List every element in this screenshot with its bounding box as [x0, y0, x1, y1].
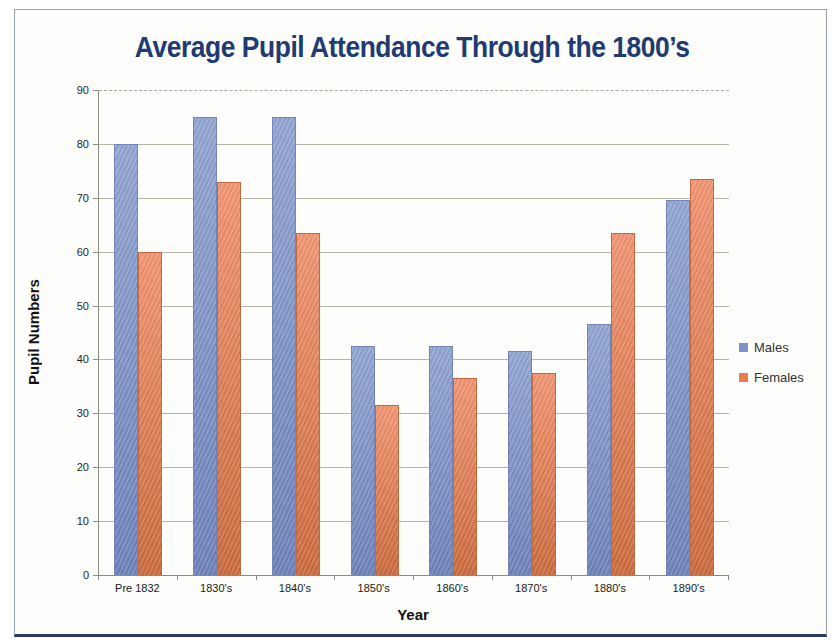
plot-area [98, 90, 729, 576]
y-tick-mark [93, 90, 98, 91]
bar-group-1850's [335, 90, 414, 575]
x-tick-mark [649, 576, 650, 580]
legend-item-females: Females [739, 370, 804, 385]
x-tick-mark [571, 576, 572, 580]
x-tick-label-1890's: 1890's [649, 582, 729, 594]
y-tick-label-90: 90 [55, 83, 89, 97]
bar-group-1870's [493, 90, 572, 575]
y-tick-label-30: 30 [55, 406, 89, 420]
x-tick-mark [492, 576, 493, 580]
bar-females-1870's [532, 373, 556, 575]
y-tick-label-80: 80 [55, 137, 89, 151]
bar-males-1850's [351, 346, 375, 575]
bar-females-1890's [690, 179, 714, 575]
y-tick-label-60: 60 [55, 245, 89, 259]
y-tick-mark [93, 306, 98, 307]
bar-group-1890's [650, 90, 729, 575]
bar-group-1860's [414, 90, 493, 575]
bar-males-1830's [193, 117, 217, 575]
y-tick-label-0: 0 [55, 568, 89, 582]
x-tick-label-1860's: 1860's [412, 582, 492, 594]
x-tick-mark [334, 576, 335, 580]
legend: Males Females [739, 340, 804, 400]
chart-title: Average Pupil Attendance Through the 180… [15, 30, 810, 64]
x-tick-label-1850's: 1850's [334, 582, 414, 594]
bar-females-1850's [375, 405, 399, 575]
y-tick-label-10: 10 [55, 514, 89, 528]
y-axis-title: Pupil Numbers [25, 222, 42, 442]
y-tick-mark [93, 521, 98, 522]
legend-item-males: Males [739, 340, 804, 355]
x-tick-label-1830's: 1830's [176, 582, 256, 594]
legend-label-males: Males [754, 340, 789, 355]
bar-group-1880's [572, 90, 651, 575]
bar-females-1860's [453, 378, 477, 575]
males-swatch-icon [739, 343, 748, 352]
y-tick-mark [93, 467, 98, 468]
bar-males-1880's [587, 324, 611, 575]
x-tick-label-1870's: 1870's [491, 582, 571, 594]
bar-group-Pre 1832 [99, 90, 178, 575]
x-tick-label-Pre 1832: Pre 1832 [97, 582, 177, 594]
y-tick-label-70: 70 [55, 191, 89, 205]
scanned-chart-page: Average Pupil Attendance Through the 180… [0, 0, 834, 643]
chart-title-text: Average Pupil Attendance Through the 180… [135, 30, 690, 64]
bar-females-1840's [296, 233, 320, 575]
bar-males-1890's [666, 200, 690, 575]
females-swatch-icon [739, 373, 748, 382]
y-tick-label-50: 50 [55, 299, 89, 313]
y-tick-mark [93, 198, 98, 199]
bar-group-1830's [178, 90, 257, 575]
legend-label-females: Females [754, 370, 804, 385]
bar-males-Pre 1832 [114, 144, 138, 575]
y-tick-mark [93, 144, 98, 145]
x-tick-mark [177, 576, 178, 580]
y-tick-mark [93, 359, 98, 360]
bar-females-Pre 1832 [138, 252, 162, 575]
x-tick-mark [256, 576, 257, 580]
x-tick-mark [98, 576, 99, 580]
x-tick-label-1880's: 1880's [570, 582, 650, 594]
x-axis-title: Year [98, 606, 728, 623]
y-tick-label-40: 40 [55, 352, 89, 366]
bar-males-1860's [429, 346, 453, 575]
bar-males-1870's [508, 351, 532, 575]
y-tick-mark [93, 252, 98, 253]
bar-females-1880's [611, 233, 635, 575]
y-tick-label-20: 20 [55, 460, 89, 474]
bar-males-1840's [272, 117, 296, 575]
bar-group-1840's [257, 90, 336, 575]
x-tick-label-1840's: 1840's [255, 582, 335, 594]
x-tick-mark [728, 576, 729, 580]
x-tick-mark [413, 576, 414, 580]
chart-frame: Average Pupil Attendance Through the 180… [14, 9, 827, 637]
bar-females-1830's [217, 182, 241, 575]
y-tick-mark [93, 413, 98, 414]
